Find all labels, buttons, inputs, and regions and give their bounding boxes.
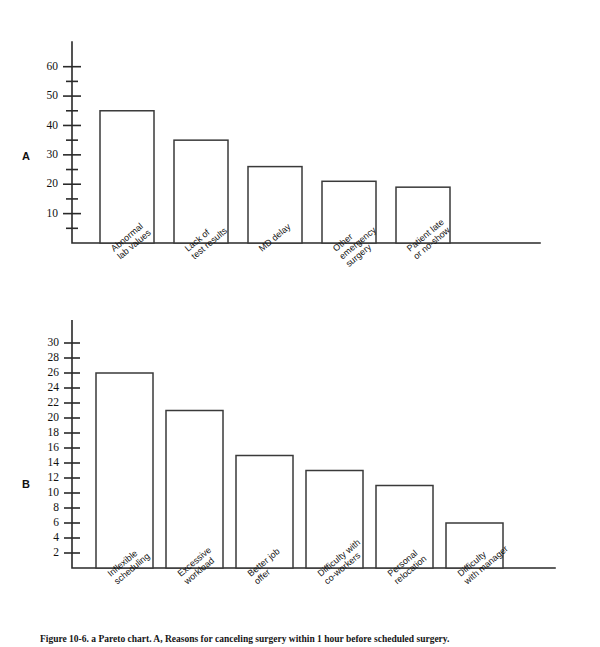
figure-caption: Figure 10-6. a Pareto chart. A, Reasons … [40,634,585,645]
bar [100,111,154,243]
y-axis-tick-label: 60 [47,60,59,72]
bar [96,373,153,568]
chart-b-canvas: 24681012141618202224262830Inflexiblesche… [0,320,600,620]
y-axis-tick-label: 22 [48,396,60,408]
y-axis-tick-label: 28 [48,351,60,363]
panel-letter-a: A [22,150,30,162]
y-axis-tick-label: 26 [48,366,60,378]
y-axis-tick-label: 4 [53,531,59,543]
y-axis-tick-label: 20 [47,177,59,189]
y-axis-tick-label: 8 [53,501,59,513]
y-axis-tick-label: 50 [47,89,59,101]
bar [236,456,293,569]
chart-panel-a: A 102030405060Abnormallab valuesLack oft… [0,0,600,320]
y-axis-tick-label: 12 [48,471,60,483]
y-axis-tick-label: 2 [53,546,59,558]
pareto-figure: A 102030405060Abnormallab valuesLack oft… [0,0,600,647]
y-axis-tick-label: 30 [48,336,60,348]
y-axis-tick-label: 24 [48,381,60,393]
y-axis-tick-label: 40 [47,119,59,131]
bar [166,411,223,569]
y-axis-tick-label: 20 [48,411,60,423]
chart-a-canvas: 102030405060Abnormallab valuesLack oftes… [0,0,600,320]
y-axis-tick-label: 18 [48,426,60,438]
y-axis-tick-label: 6 [53,516,59,528]
y-axis-tick-label: 10 [47,207,59,219]
y-axis-tick-label: 10 [48,486,60,498]
y-axis-tick-label: 14 [48,456,60,468]
chart-panel-b: B 24681012141618202224262830Inflexiblesc… [0,320,600,620]
y-axis-tick-label: 16 [48,441,60,453]
panel-letter-b: B [22,478,30,490]
y-axis-tick-label: 30 [47,148,59,160]
